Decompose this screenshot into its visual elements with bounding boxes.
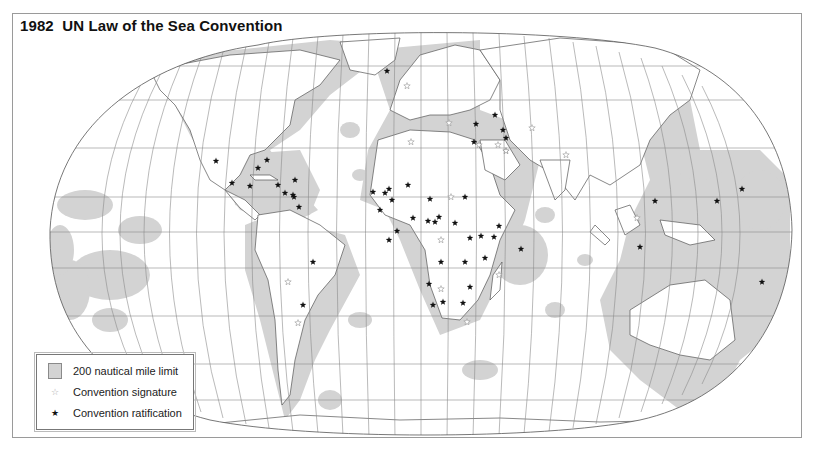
open-star-icon: ☆ (51, 388, 59, 397)
legend-item-ratification: ★ Convention ratification (37, 404, 182, 422)
legend-item-signature: ☆ Convention signature (37, 383, 177, 401)
gray-swatch-icon (48, 363, 62, 379)
map-legend: 200 nautical mile limit ☆ Convention sig… (36, 354, 194, 430)
filled-star-icon: ★ (51, 409, 59, 418)
legend-item-eez: 200 nautical mile limit (37, 361, 178, 381)
